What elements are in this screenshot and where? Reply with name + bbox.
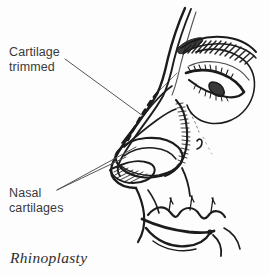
philtrum-strokes xyxy=(169,196,215,212)
label-nasal-cartilages-line1: Nasal xyxy=(9,186,41,200)
figure-caption: Rhinoplasty xyxy=(10,249,87,267)
cheek-detail-marks xyxy=(188,108,212,154)
leader-lines xyxy=(57,59,143,190)
label-nasal-cartilages-line2: cartilages xyxy=(9,201,64,215)
leader-line-nasal-cartilages-a xyxy=(57,157,126,190)
label-cartilage-trimmed: Cartilagetrimmed xyxy=(9,45,60,75)
rhinoplasty-figure: Cartilagetrimmed Nasalcartilages Rhinopl… xyxy=(0,0,269,275)
lips xyxy=(142,207,240,256)
label-nasal-cartilages: Nasalcartilages xyxy=(9,186,64,216)
label-cartilage-trimmed-line1: Cartilage xyxy=(9,45,60,59)
label-cartilage-trimmed-line2: trimmed xyxy=(9,60,55,74)
eye xyxy=(186,49,255,123)
nasal-ala-outline xyxy=(165,100,187,176)
leader-line-cartilage-trimmed xyxy=(65,59,143,116)
illustration-canvas xyxy=(0,0,269,275)
